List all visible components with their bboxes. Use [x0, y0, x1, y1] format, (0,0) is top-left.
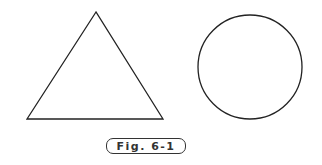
triangle-shape: [27, 12, 163, 119]
figure-caption-text: Fig. 6-1: [116, 140, 175, 153]
circle-shape: [198, 15, 302, 119]
figure-caption: Fig. 6-1: [106, 138, 186, 154]
